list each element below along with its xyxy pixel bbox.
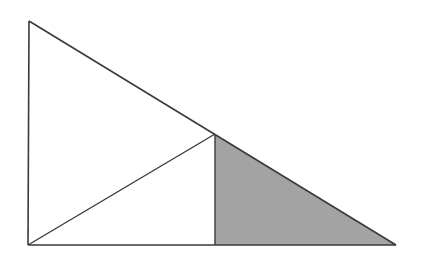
diagonal-segment [28, 134, 215, 245]
left-side [28, 21, 29, 245]
geometry-diagram [0, 0, 425, 257]
